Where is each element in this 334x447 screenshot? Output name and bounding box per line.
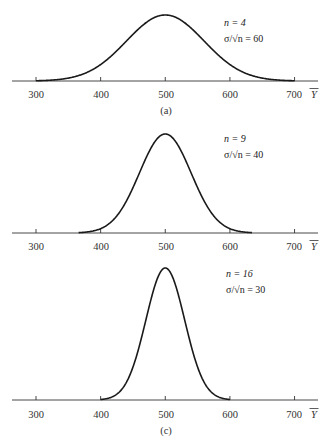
sample-size-annotation: n = 9: [224, 133, 246, 144]
tick-label-300: 300: [28, 89, 44, 100]
tick-label-600: 600: [222, 241, 238, 252]
tick-label-500: 500: [158, 89, 174, 100]
tick-label-700: 700: [286, 409, 302, 420]
tick-label-400: 400: [93, 89, 109, 100]
standard-error-annotation: σ/√n = 30: [226, 284, 265, 295]
tick-label-500: 500: [158, 241, 174, 252]
standard-error-annotation: σ/√n = 60: [224, 33, 263, 44]
panel-a: 300 400 500 600 700 Y (a) n = 4 σ/√n = 6…: [12, 15, 319, 117]
tick-label-400: 400: [93, 409, 109, 420]
panel-label-c: (c): [160, 425, 172, 437]
sampling-distribution-figure: 300 400 500 600 700 Y (a) n = 4 σ/√n = 6…: [0, 0, 334, 447]
panel-b: 300 400 500 600 700 Y n = 9 σ/√n = 40: [12, 133, 319, 252]
axis-label-ybar: Y: [311, 409, 318, 420]
axis-label-ybar: Y: [311, 241, 318, 252]
x-ticks: [36, 229, 295, 233]
panel-c: 300 400 500 600 700 Y (c) n = 16 σ/√n = …: [12, 268, 319, 437]
tick-label-300: 300: [28, 409, 44, 420]
standard-error-annotation: σ/√n = 40: [224, 149, 263, 160]
tick-label-500: 500: [158, 409, 174, 420]
sample-size-annotation: n = 16: [226, 268, 253, 279]
tick-label-400: 400: [93, 241, 109, 252]
tick-label-300: 300: [28, 241, 44, 252]
sample-size-annotation: n = 4: [224, 17, 246, 28]
tick-label-600: 600: [222, 89, 238, 100]
tick-label-700: 700: [286, 241, 302, 252]
panel-label-a: (a): [160, 105, 172, 117]
tick-label-600: 600: [222, 409, 238, 420]
tick-label-700: 700: [286, 89, 302, 100]
x-ticks: [36, 77, 295, 81]
axis-label-ybar: Y: [311, 89, 318, 100]
normal-curve: [36, 15, 295, 81]
x-ticks: [36, 396, 295, 400]
normal-curve: [101, 268, 230, 399]
